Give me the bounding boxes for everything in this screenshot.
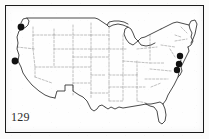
state-line-vt-nh: [181, 27, 187, 33]
state-line-oh-mi-pa: [137, 47, 157, 49]
outline-northern-border-east: [161, 22, 189, 29]
outline-lake-erie-ontario: [138, 29, 161, 46]
state-boundaries-layer: [17, 23, 187, 103]
outline-mid-atlantic-coast: [180, 47, 189, 75]
state-line-ny-vt-ma: [175, 35, 181, 37]
usa-map-svg: [5, 5, 204, 133]
state-line-or-id-nv: [33, 49, 35, 77]
state-line-ny-ct-ma: [175, 39, 187, 41]
record-dot-northern-california: [12, 58, 19, 65]
state-line-pa-ny: [161, 45, 175, 47]
distribution-map-figure: 129: [0, 0, 209, 139]
outline-pacific-coast: [17, 18, 55, 98]
record-dot-chesapeake: [174, 67, 180, 73]
state-line-or-ca: [17, 47, 35, 49]
state-line-nv-az: [35, 77, 52, 83]
outline-northern-border-west: [27, 18, 107, 25]
outline-mexico-border: [55, 85, 105, 111]
outline-new-england-coast: [188, 20, 197, 47]
record-dot-delaware: [176, 61, 182, 67]
state-line-in-oh-ky: [123, 61, 150, 63]
outline-michigan-mitten: [124, 27, 138, 45]
state-line-al-fl: [137, 101, 146, 103]
outline-southeast-atlantic-coast: [163, 75, 180, 104]
record-dot-pacific-northwest: [18, 24, 25, 31]
record-dot-new-jersey: [177, 53, 183, 59]
state-line-sc-ga: [151, 83, 161, 87]
outline-lake-superior-up: [107, 21, 128, 27]
outline-florida: [146, 102, 166, 124]
outline-gulf-coast: [105, 104, 146, 109]
figure-number-label: 129: [11, 111, 30, 123]
state-line-pa-nj: [170, 49, 175, 57]
state-line-va-nc: [150, 69, 171, 71]
